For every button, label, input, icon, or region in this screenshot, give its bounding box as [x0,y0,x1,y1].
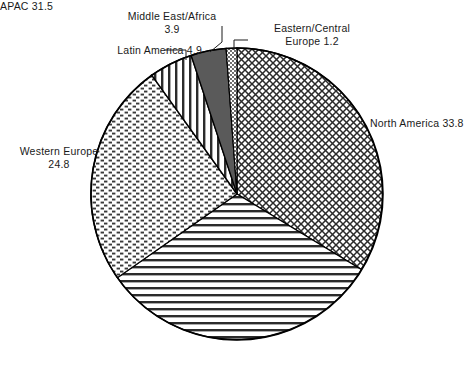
slice-label-north-america: North America 33.8 [370,117,472,130]
slice-label-apac: APAC 31.5 [0,0,53,13]
slice-label-western-europe: Western Europe 24.8 [6,145,112,171]
slice-label-eastern-central-europe: Eastern/Central Europe 1.2 [254,22,370,48]
slice-label-latin-america: Latin America 4.9 [52,44,202,57]
pie-slices [91,48,383,340]
pie-chart-canvas [0,0,472,382]
pie-chart: Middle East/Africa 3.9 Latin America 4.9… [0,0,472,382]
slice-label-middle-east-africa: Middle East/Africa 3.9 [92,10,252,36]
